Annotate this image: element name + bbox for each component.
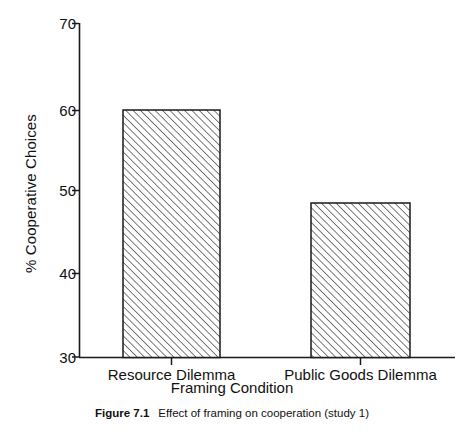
figure-caption-label: Figure 7.1	[95, 407, 149, 419]
bar-public-goods-dilemma	[311, 203, 410, 358]
figure-container: % Cooperative Choices 70 60 50 40 30	[0, 0, 464, 436]
figure-caption-text: Effect of framing on cooperation (study …	[158, 407, 369, 419]
x-axis-label: Framing Condition	[0, 379, 464, 396]
y-axis-ticks	[72, 24, 79, 358]
figure-caption: Figure 7.1Effect of framing on cooperati…	[0, 407, 464, 419]
bar-resource-dilemma	[123, 110, 220, 358]
x-axis-ticks	[172, 358, 361, 365]
